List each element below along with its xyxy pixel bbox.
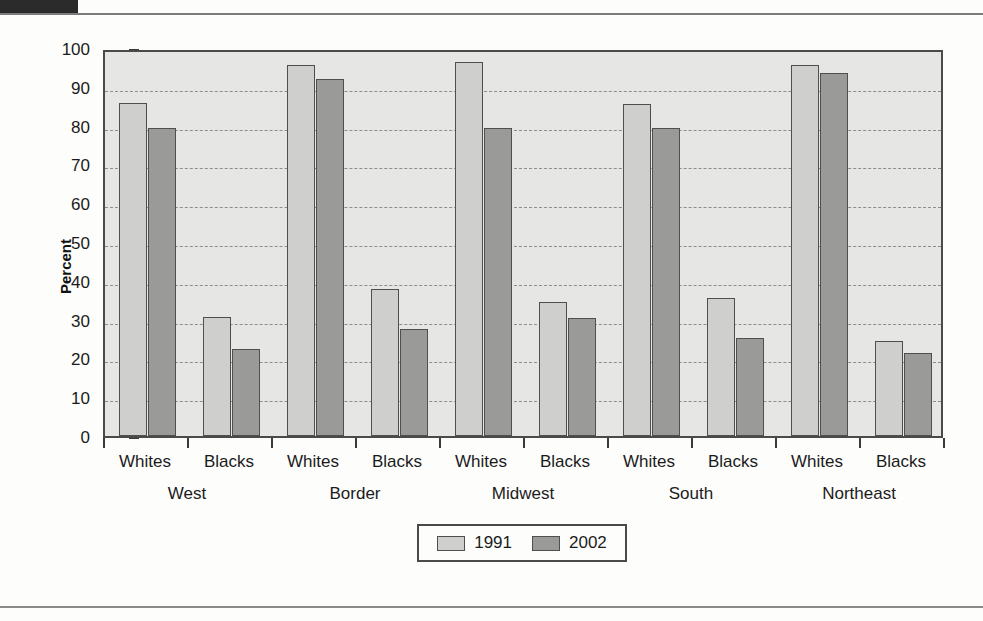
legend-item-2002: 2002 [532, 533, 607, 553]
x-tick-mark [607, 438, 609, 448]
y-tick-label: 20 [34, 350, 90, 370]
bar [371, 289, 399, 436]
x-sub-label: Whites [791, 452, 843, 472]
bar [232, 349, 260, 436]
bar [316, 79, 344, 436]
legend-swatch-1991-icon [437, 536, 465, 551]
bar [484, 128, 512, 436]
x-sub-label: Blacks [204, 452, 254, 472]
bar [652, 128, 680, 436]
x-tick-mark [103, 438, 105, 448]
legend-swatch-2002-icon [532, 536, 560, 551]
x-tick-mark [355, 438, 357, 448]
top-horizontal-rule [0, 13, 983, 15]
bar [539, 302, 567, 436]
x-group-label: West [168, 484, 206, 504]
chart-legend: 1991 2002 [417, 524, 627, 562]
x-sub-label: Whites [287, 452, 339, 472]
bar [400, 329, 428, 436]
y-tick-label: 70 [34, 156, 90, 176]
y-tick-label: 40 [34, 273, 90, 293]
scanned-page: Percent 0102030405060708090100 WhitesBla… [0, 0, 983, 621]
y-tick-label: 0 [34, 428, 90, 448]
x-sub-label: Whites [623, 452, 675, 472]
y-tick-label: 50 [34, 234, 90, 254]
bar [707, 298, 735, 436]
x-tick-mark [691, 438, 693, 448]
bar [623, 104, 651, 436]
y-tick-label: 10 [34, 389, 90, 409]
x-sub-label: Whites [119, 452, 171, 472]
y-tick-label: 100 [34, 40, 90, 60]
x-tick-mark [439, 438, 441, 448]
bar [148, 128, 176, 436]
header-tab-block [0, 0, 78, 13]
y-tick-label: 80 [34, 118, 90, 138]
bar [904, 353, 932, 436]
y-axis: Percent 0102030405060708090100 [34, 40, 90, 450]
x-sub-label: Blacks [540, 452, 590, 472]
y-tick-label: 90 [34, 79, 90, 99]
bar [119, 103, 147, 436]
bar [568, 318, 596, 436]
x-sub-label: Blacks [372, 452, 422, 472]
x-sub-label: Blacks [876, 452, 926, 472]
bottom-horizontal-rule [0, 606, 983, 608]
x-tick-mark [943, 438, 945, 448]
y-tick-label: 60 [34, 195, 90, 215]
bar [203, 317, 231, 437]
bar [736, 338, 764, 436]
x-sub-label: Blacks [708, 452, 758, 472]
x-sub-label: Whites [455, 452, 507, 472]
x-tick-mark [187, 438, 189, 448]
bar [287, 65, 315, 436]
x-group-label: Border [329, 484, 380, 504]
legend-label-2002: 2002 [569, 533, 607, 553]
legend-item-1991: 1991 [437, 533, 512, 553]
plot-area [103, 50, 943, 438]
x-group-label: Midwest [492, 484, 554, 504]
x-axis: WhitesBlacksWhitesBlacksWhitesBlacksWhit… [103, 438, 943, 513]
legend-label-1991: 1991 [474, 533, 512, 553]
bar [875, 341, 903, 436]
x-tick-mark [271, 438, 273, 448]
x-tick-mark [775, 438, 777, 448]
x-group-label: South [669, 484, 713, 504]
bar [820, 73, 848, 436]
x-tick-mark [859, 438, 861, 448]
x-tick-mark [523, 438, 525, 448]
x-group-label: Northeast [822, 484, 896, 504]
bar [791, 65, 819, 436]
bar [455, 62, 483, 436]
y-tick-label: 30 [34, 312, 90, 332]
